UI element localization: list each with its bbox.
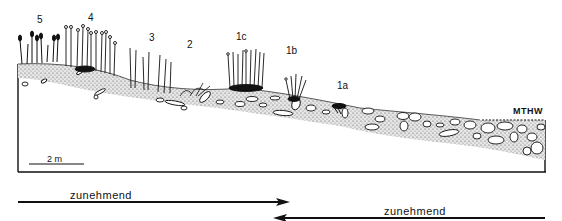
zone-label-2: 2: [187, 40, 193, 50]
zone-label-1a: 1a: [337, 81, 348, 91]
zone-label-1b: 1b: [286, 46, 297, 56]
mthw-label: MTHW: [513, 107, 543, 116]
zone-label-3: 3: [149, 33, 155, 43]
arrow-right: [18, 198, 290, 206]
beach-profile-diagram: [0, 0, 562, 221]
arrow-right-label: zunehmend: [70, 190, 132, 201]
vegetation-zone-5: [19, 31, 60, 64]
vegetation-zone-1c: [227, 49, 264, 92]
arrow-left-label: zunehmend: [384, 206, 446, 217]
scale-bar-label: 2 m: [47, 155, 62, 164]
zone-label-1c: 1c: [236, 32, 247, 42]
zone-label-4: 4: [88, 13, 94, 23]
zone-label-5: 5: [37, 15, 43, 25]
